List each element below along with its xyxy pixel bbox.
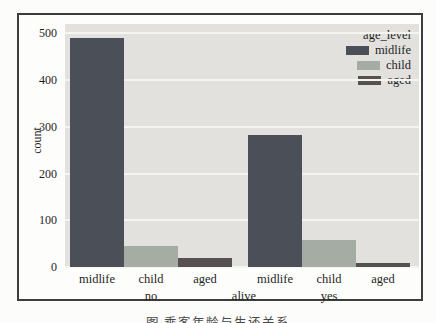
x-tick-label: aged (193, 272, 217, 287)
bar-yes-child (302, 240, 356, 267)
y-tick-label: 300 (39, 120, 57, 134)
x-group-label: yes (321, 289, 338, 304)
figure-caption: 图 乘客年龄与生还关系 (0, 312, 436, 323)
bar-yes-aged (356, 263, 410, 267)
x-axis-label: alive (232, 289, 256, 304)
legend-label: child (386, 58, 411, 73)
x-tick-label: child (139, 272, 164, 287)
legend-swatch (346, 46, 369, 55)
y-tick-label: 500 (39, 26, 57, 40)
x-tick-label: child (317, 272, 342, 287)
legend-entry: child (357, 58, 411, 73)
x-tick-label: aged (371, 272, 395, 287)
y-tick-label: 400 (39, 73, 57, 87)
legend-title: age_level (363, 27, 411, 43)
legend-swatch (357, 61, 380, 70)
bar-no-aged (178, 258, 232, 267)
legend-label: midlife (375, 43, 411, 58)
y-tick-label: 200 (39, 167, 57, 181)
x-group-row: alive noyes (65, 289, 419, 304)
x-tick-row: midlifechildagedmidlifechildaged (65, 272, 419, 287)
bar-yes-midlife (248, 135, 302, 267)
y-tick-label: 0 (51, 260, 57, 274)
x-tick-label: midlife (257, 272, 293, 287)
gridline (65, 32, 419, 34)
legend-entry: midlife (346, 43, 411, 58)
bar-no-midlife (70, 38, 124, 267)
chart-figure: count 0100200300400500 age_level midlife… (17, 13, 423, 301)
x-tick-label: midlife (79, 272, 115, 287)
plot-area: age_level midlifechildaged (65, 24, 419, 267)
y-axis: 0100200300400500 (19, 24, 65, 267)
bar-no-child (124, 246, 178, 267)
x-group-label: no (145, 289, 158, 304)
y-tick-label: 100 (39, 213, 57, 227)
